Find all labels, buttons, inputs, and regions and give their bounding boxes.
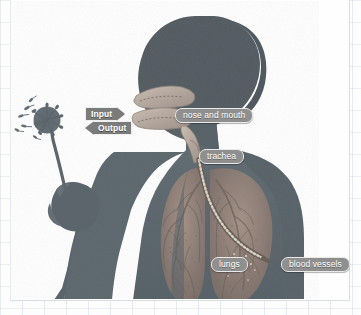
output-flow-arrow: Output	[85, 121, 132, 135]
label-trachea: trachea	[199, 149, 244, 164]
dandelion-seed-head	[31, 102, 64, 136]
diagram-page: Input Output nose and mouth trachea lung…	[0, 0, 361, 315]
label-nose-and-mouth: nose and mouth	[175, 108, 253, 123]
label-blood-vessels: blood vessels	[281, 257, 350, 272]
dandelion-stem	[51, 128, 66, 192]
label-lungs: lungs	[211, 257, 248, 272]
bronchus	[263, 258, 268, 261]
output-label: Output	[98, 122, 126, 134]
input-label: Input	[91, 108, 112, 120]
